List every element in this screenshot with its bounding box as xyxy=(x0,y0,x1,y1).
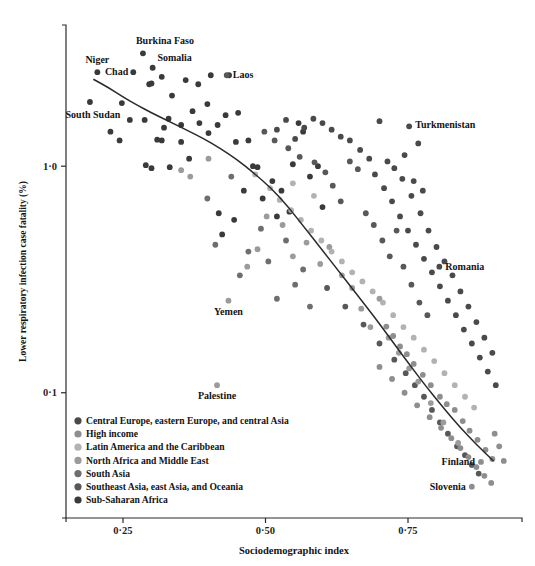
data-point xyxy=(297,154,303,160)
data-point xyxy=(322,169,328,175)
data-point xyxy=(466,304,472,310)
data-point xyxy=(481,335,487,341)
legend-swatch xyxy=(74,430,81,437)
data-point xyxy=(444,401,450,407)
data-point xyxy=(415,141,421,147)
legend-swatch xyxy=(74,444,81,451)
data-point xyxy=(417,300,423,306)
data-point xyxy=(357,147,363,153)
data-point xyxy=(404,351,410,357)
data-point xyxy=(493,382,499,388)
data-point xyxy=(223,112,229,118)
data-point xyxy=(300,267,306,273)
data-point xyxy=(409,282,415,288)
data-point xyxy=(347,137,353,143)
legend-item: High income xyxy=(74,428,138,439)
data-point xyxy=(420,188,426,194)
data-point xyxy=(215,122,221,128)
data-point xyxy=(296,120,302,126)
data-point xyxy=(402,152,408,158)
data-point xyxy=(140,50,146,56)
data-point xyxy=(437,283,443,289)
data-point xyxy=(119,100,125,106)
data-point xyxy=(283,117,289,123)
data-point xyxy=(442,370,448,376)
data-point xyxy=(292,282,298,288)
data-point xyxy=(413,242,419,248)
y-tick-label: 0·1 xyxy=(43,387,57,398)
data-point xyxy=(389,198,395,204)
data-point xyxy=(418,210,424,216)
data-point xyxy=(403,370,409,376)
data-point xyxy=(307,174,313,180)
data-point xyxy=(390,333,396,339)
data-point xyxy=(381,185,387,191)
data-point xyxy=(355,166,361,172)
data-point xyxy=(471,405,477,411)
legend-item: Southeast Asia, east Asia, and Oceania xyxy=(74,481,243,492)
series-central-europe-eastern-europe-and-central-asia xyxy=(274,116,499,388)
data-point xyxy=(339,259,345,265)
data-point xyxy=(377,341,383,347)
data-point xyxy=(476,471,482,477)
data-point xyxy=(411,178,417,184)
data-point xyxy=(226,298,232,304)
data-point xyxy=(399,176,405,182)
legend-label: South Asia xyxy=(86,468,130,479)
data-point xyxy=(428,382,434,388)
annotation-label: South Sudan xyxy=(66,109,121,120)
data-point xyxy=(429,269,435,275)
data-point xyxy=(458,445,464,451)
annotation-label: Romania xyxy=(445,261,484,272)
data-point xyxy=(474,319,480,325)
data-point xyxy=(169,93,175,99)
data-point xyxy=(411,335,417,341)
annotation-label: Niger xyxy=(85,54,109,65)
data-point xyxy=(391,165,397,171)
data-point xyxy=(440,419,446,425)
data-point xyxy=(379,238,385,244)
data-point xyxy=(401,264,407,270)
data-point xyxy=(280,222,286,228)
data-point xyxy=(274,127,280,133)
data-point xyxy=(307,304,313,310)
data-point xyxy=(414,402,420,408)
data-point xyxy=(219,232,225,238)
data-point xyxy=(178,139,184,145)
data-point xyxy=(475,437,481,443)
data-point xyxy=(455,440,461,446)
data-point xyxy=(228,174,234,180)
data-point xyxy=(434,244,440,250)
data-point xyxy=(402,390,408,396)
data-point xyxy=(206,130,212,136)
data-point xyxy=(274,296,280,302)
data-point xyxy=(426,228,432,234)
data-point xyxy=(149,165,155,171)
data-point xyxy=(283,238,289,244)
data-point xyxy=(366,156,372,162)
data-point xyxy=(117,137,123,143)
data-point xyxy=(304,240,310,246)
data-point xyxy=(429,407,435,413)
data-point xyxy=(338,198,344,204)
data-point xyxy=(385,159,391,165)
data-point xyxy=(427,414,433,420)
data-point xyxy=(241,188,247,194)
data-point xyxy=(394,228,400,234)
data-point xyxy=(231,217,237,223)
data-point xyxy=(450,272,456,278)
data-point xyxy=(496,443,502,449)
data-point xyxy=(159,74,165,80)
data-point xyxy=(428,400,434,406)
data-point xyxy=(467,428,473,434)
data-point xyxy=(377,118,383,124)
data-point xyxy=(233,139,239,145)
data-point xyxy=(370,289,376,295)
data-point xyxy=(380,300,386,306)
data-point xyxy=(190,108,196,114)
data-point xyxy=(224,72,230,78)
data-point xyxy=(290,180,296,186)
annotation-label: Burkina Faso xyxy=(136,35,194,46)
data-point xyxy=(149,81,155,87)
data-point xyxy=(363,210,369,216)
